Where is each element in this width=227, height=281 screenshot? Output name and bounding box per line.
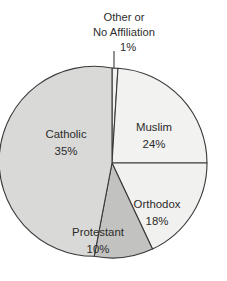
callout-label-line1: Other or: [103, 11, 144, 23]
slice-label-catholic-value: 35%: [55, 145, 78, 157]
pie-chart-svg: Other or No Affiliation 1% Muslim 24% Or…: [0, 0, 227, 281]
pie-chart-figure: Other or No Affiliation 1% Muslim 24% Or…: [0, 0, 227, 281]
slice-label-protestant-name: Protestant: [72, 226, 125, 238]
slice-label-orthodox-name: Orthodox: [134, 198, 181, 210]
slice-label-protestant-value: 10%: [87, 243, 110, 255]
slice-label-muslim-name: Muslim: [136, 121, 172, 133]
callout-label-value: 1%: [120, 41, 136, 53]
slice-label-muslim-value: 24%: [143, 138, 166, 150]
slice-label-catholic-name: Catholic: [45, 128, 86, 140]
callout-label-line2: No Affiliation: [93, 26, 155, 38]
slice-label-orthodox-value: 18%: [146, 215, 169, 227]
